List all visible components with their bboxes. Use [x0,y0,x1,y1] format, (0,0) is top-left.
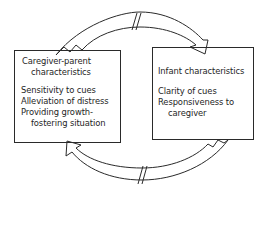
caregiver-title-line2: characteristics [31,67,91,77]
infant-item-caregiver: caregiver [168,108,206,118]
infant-title: Infant characteristics [158,66,244,76]
infant-item-responsiveness: Responsiveness to [158,97,234,107]
caregiver-item-alleviation: Alleviation of distress [21,96,109,106]
bottom-arrow-body [66,140,228,180]
caregiver-item-sensitivity: Sensitivity to cues [21,85,96,95]
infant-item-clarity: Clarity of cues [158,86,217,96]
caregiver-item-fostering: fostering situation [31,118,106,128]
bottom-arrow [66,140,228,184]
caregiver-title-line1: Caregiver-parent [22,56,91,66]
caregiver-item-providing: Providing growth- [21,107,93,117]
